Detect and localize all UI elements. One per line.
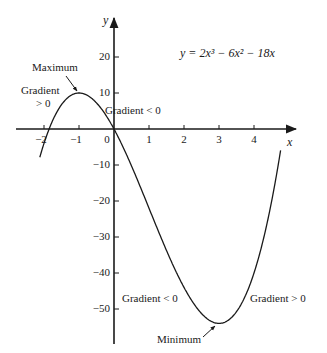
- maximum-arrow: [66, 76, 77, 91]
- x-tick-label: 2: [181, 133, 187, 145]
- y-tick-label: −10: [80, 158, 110, 170]
- gradient-positive-right-label: Gradient > 0: [250, 292, 306, 304]
- gradient-negative-bottom-label: Gradient < 0: [122, 292, 178, 304]
- minimum-arrow: [203, 326, 215, 337]
- x-tick-label: −1: [70, 133, 82, 145]
- gradient-positive-left-sign: > 0: [36, 97, 50, 109]
- x-tick-label: 3: [216, 133, 222, 145]
- y-tick-label: −40: [80, 266, 110, 278]
- x-axis-label: x: [287, 136, 292, 148]
- minimum-label: Minimum: [157, 333, 201, 345]
- x-tick-label: 4: [251, 133, 257, 145]
- y-tick-label: 10: [80, 86, 110, 98]
- y-tick-label: −20: [80, 194, 110, 206]
- equation-label: y = 2x³ − 6x² − 18x: [180, 47, 275, 59]
- x-tick-label: 0: [104, 133, 110, 145]
- x-tick-label: −2: [35, 133, 47, 145]
- gradient-positive-left-label: Gradient: [21, 84, 59, 96]
- x-tick-label: 1: [146, 133, 152, 145]
- gradient-negative-top-label: Gradient < 0: [105, 104, 161, 116]
- y-tick-label: −30: [80, 230, 110, 242]
- y-tick-label: −50: [80, 302, 110, 314]
- maximum-label: Maximum: [32, 61, 78, 73]
- y-axis-label: y: [103, 14, 108, 26]
- cubic-curve: [40, 93, 281, 323]
- y-tick-label: 20: [80, 50, 110, 62]
